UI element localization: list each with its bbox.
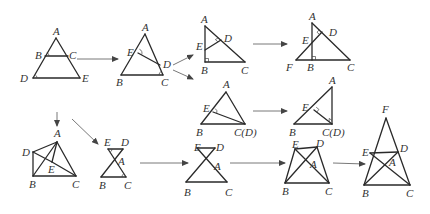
point-label-E: E <box>81 72 89 84</box>
point-label-E: E <box>47 163 55 175</box>
point-label-E: E <box>195 40 203 52</box>
arrow-3 <box>173 70 193 79</box>
point-label-B: B <box>362 187 369 199</box>
point-label-D: D <box>399 142 408 154</box>
segment-AC <box>145 34 163 75</box>
diagram-svg: ABCDEAEDBCAEDBCAEDFBCAEBC(D)AEBC(D)ADEBC… <box>0 0 430 214</box>
segment-EC <box>213 112 245 124</box>
point-label-A: A <box>141 21 149 33</box>
point-label-D: D <box>162 58 171 70</box>
segment-AB <box>294 87 332 124</box>
point-label-C: C <box>406 187 414 199</box>
figure-fig9: EDABC <box>184 141 233 198</box>
segment-FD <box>296 32 322 60</box>
point-label-E: E <box>301 101 309 113</box>
point-label-B: B <box>184 186 191 198</box>
point-label-E: E <box>202 102 210 114</box>
point-label-E: E <box>193 141 201 153</box>
figure-fig2: AEDBC <box>116 21 171 88</box>
segment-AC <box>226 92 245 124</box>
point-label-B: B <box>282 185 289 197</box>
arrow-2 <box>173 55 193 65</box>
point-label-E: E <box>126 46 134 58</box>
point-label-C(D): C(D) <box>234 126 257 139</box>
point-label-A: A <box>328 74 336 86</box>
point-label-B: B <box>29 178 36 190</box>
point-label-D: D <box>19 72 28 84</box>
arrow-10 <box>333 163 365 164</box>
figure-fig6: AEBC(D) <box>289 74 345 139</box>
segment-ED <box>138 53 160 65</box>
point-label-D: D <box>215 141 224 153</box>
figure-fig5: AEBC(D) <box>196 78 257 139</box>
point-label-A: A <box>53 127 61 139</box>
point-label-C(D): C(D) <box>322 126 345 139</box>
segment-EC <box>197 148 227 182</box>
point-label-F: F <box>285 61 293 73</box>
segment-AE <box>56 38 80 78</box>
point-label-B: B <box>35 49 42 61</box>
point-label-A: A <box>308 10 316 22</box>
point-label-B: B <box>289 126 296 138</box>
point-label-A: A <box>388 156 396 168</box>
point-label-C: C <box>72 178 80 190</box>
point-label-E: E <box>301 34 309 46</box>
figures: ABCDEAEDBCAEDBCAEDFBCAEBC(D)AEBC(D)ADEBC… <box>19 10 414 199</box>
figure-fig1: ABCDE <box>19 25 89 84</box>
point-label-D: D <box>315 137 324 149</box>
figure-fig8: EDABC <box>99 136 132 191</box>
point-label-C: C <box>325 185 333 197</box>
point-label-A: A <box>117 155 125 167</box>
figure-fig3: AEDBC <box>195 13 249 76</box>
point-label-C: C <box>161 76 169 88</box>
point-label-D: D <box>328 26 337 38</box>
point-label-B: B <box>201 64 208 76</box>
point-label-B: B <box>116 76 123 88</box>
point-label-C: C <box>69 49 77 61</box>
segment-ED <box>205 40 221 50</box>
point-label-A: A <box>52 25 60 37</box>
point-label-E: E <box>361 146 369 158</box>
point-label-A: A <box>213 160 221 172</box>
point-label-B: B <box>99 179 106 191</box>
point-label-D: D <box>21 146 30 158</box>
point-label-D: D <box>120 136 129 148</box>
point-label-E: E <box>103 136 111 148</box>
point-label-B: B <box>307 61 314 73</box>
point-label-C: C <box>241 64 249 76</box>
point-label-C: C <box>347 61 355 73</box>
geometry-diagram: ABCDEAEDBCAEDBCAEDFBCAEBC(D)AEBC(D)ADEBC… <box>0 0 430 214</box>
figure-fig7: ADEBC <box>21 127 80 190</box>
point-label-C: C <box>124 179 132 191</box>
arrow-7 <box>72 119 98 144</box>
point-label-A: A <box>200 13 208 25</box>
point-label-B: B <box>196 126 203 138</box>
segment-DB <box>186 148 215 182</box>
point-label-C: C <box>225 186 233 198</box>
point-label-D: D <box>223 32 232 44</box>
figure-fig11: FEDABC <box>361 103 414 199</box>
point-label-E: E <box>291 138 299 150</box>
point-label-A: A <box>222 78 230 90</box>
figure-fig4: AEDFBC <box>285 10 355 73</box>
point-label-A: A <box>309 158 317 170</box>
figure-fig10: EDABC <box>282 137 333 197</box>
point-label-F: F <box>381 103 389 115</box>
